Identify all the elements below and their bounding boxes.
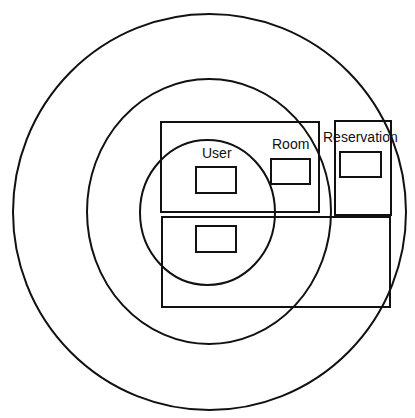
scope-diagram: UserRoomReservation <box>0 0 415 418</box>
entity-box-room <box>271 159 310 184</box>
entity-unnamed <box>196 226 236 252</box>
entity-room: Room <box>271 136 310 184</box>
entities-group: UserRoomReservation <box>196 129 398 252</box>
entity-label-room: Room <box>272 136 309 152</box>
entity-box-unnamed <box>196 226 236 252</box>
entity-box-reservation <box>340 152 381 177</box>
entity-label-user: User <box>202 145 232 161</box>
entity-box-user <box>196 167 236 193</box>
entity-user: User <box>196 145 236 193</box>
entity-label-reservation: Reservation <box>323 129 398 145</box>
